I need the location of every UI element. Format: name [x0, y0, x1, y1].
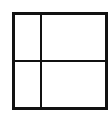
- grid-horizontal-divider: [12, 60, 108, 62]
- diagram-canvas: [0, 0, 109, 123]
